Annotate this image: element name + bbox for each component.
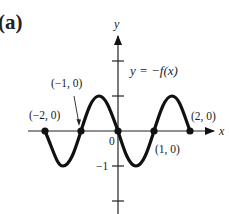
point-label-neg2: (−2, 0)	[29, 109, 61, 122]
graph: (a) y x y = −f(x) (−2, 0) (−1, 0) 0 (1, …	[0, 0, 229, 214]
y-tick-label-neg1: −1	[96, 160, 108, 172]
origin-label: 0	[109, 135, 115, 147]
x-axis-label: x	[218, 124, 225, 138]
pointer-arrowhead	[77, 119, 82, 126]
point-label-2: (2, 0)	[191, 110, 216, 123]
point-label-1: (1, 0)	[155, 143, 180, 156]
equation-label: y = −f(x)	[128, 63, 178, 78]
point-label-neg1: (−1, 0)	[51, 77, 83, 90]
y-axis-label: y	[113, 17, 120, 31]
panel-label: (a)	[0, 10, 23, 34]
